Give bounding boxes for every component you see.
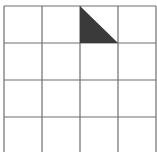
shaded-triangle [80, 6, 118, 43]
grid-diagram [0, 0, 157, 152]
